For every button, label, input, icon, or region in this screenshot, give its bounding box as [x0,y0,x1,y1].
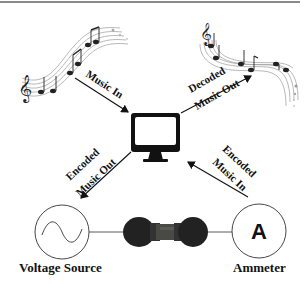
device-sample-icon [123,217,208,247]
music-in-label: Music In [84,68,126,101]
svg-text:𝄞: 𝄞 [18,74,32,103]
ammeter-symbol: A [251,219,267,244]
svg-text:𝄞: 𝄞 [200,21,212,46]
voltage-source-icon [35,205,89,259]
ammeter-caption: Ammeter [233,260,286,276]
ammeter-icon: A [232,204,286,258]
diagram-canvas: 𝄞 𝄞 Music In Decoded Music Out [0,0,308,290]
computer-monitor-icon [131,113,180,162]
voltage-source-caption: Voltage Source [19,260,102,276]
